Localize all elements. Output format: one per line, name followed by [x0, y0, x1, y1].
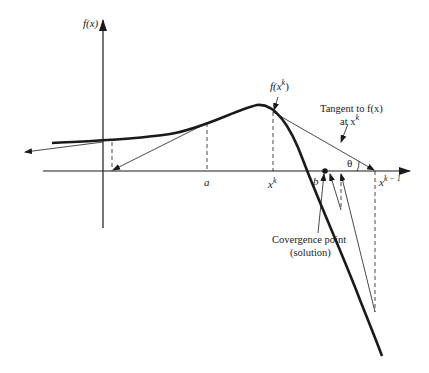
- theta-arc: [357, 161, 359, 171]
- newton-method-diagram: f(x) a xk b xk − 1 f(xk) Tangent to f(x)…: [0, 0, 429, 373]
- fxk-pointer: [274, 97, 278, 110]
- tangent-label-line1: Tangent to f(x): [320, 103, 383, 115]
- label-fxk: f(xk): [270, 78, 289, 93]
- tangent-converging: [330, 174, 341, 210]
- y-axis-label: f(x): [83, 17, 99, 30]
- theta-label: θ: [347, 157, 352, 169]
- label-xk: xk: [267, 176, 277, 190]
- convergence-label-line1: Covergence point: [272, 234, 346, 245]
- label-a: a: [204, 176, 210, 188]
- tangent-label-line2: at xk: [340, 113, 359, 127]
- convergence-point: [322, 168, 328, 174]
- label-b: b: [313, 175, 319, 187]
- tangent-from-a: [113, 123, 207, 170]
- convergence-pointer: [318, 174, 324, 233]
- convergence-label-line2: (solution): [290, 247, 331, 259]
- label-xk-minus-1: xk − 1: [378, 174, 401, 188]
